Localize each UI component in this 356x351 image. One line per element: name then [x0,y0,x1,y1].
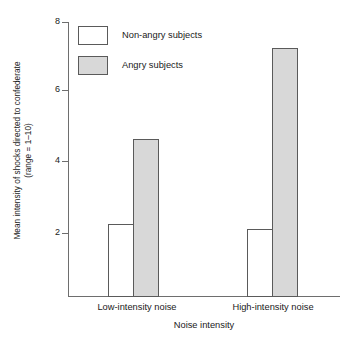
legend-label-non-angry: Non-angry subjects [122,30,202,40]
legend-label-angry: Angry subjects [122,60,183,70]
bar-low-intensity-non-angry [108,224,134,297]
legend: Non-angry subjects Angry subjects [78,24,202,84]
bar-low-intensity-angry [133,139,159,297]
y-tick-label-6: 6 [20,85,60,94]
y-tick-mark-2 [62,233,69,234]
y-axis-title: Mean intensity of shocks directed to con… [0,0,46,300]
y-tick-mark-4 [62,161,69,162]
bar-high-intensity-angry [272,48,298,297]
legend-item-angry: Angry subjects [78,54,202,76]
x-axis-title: Noise intensity [68,320,340,331]
y-tick-mark-6 [62,90,69,91]
y-tick-label-4: 4 [20,156,60,165]
bar-high-intensity-non-angry [247,229,273,297]
y-tick-label-8: 8 [20,17,60,26]
y-tick-label-2: 2 [20,228,60,237]
legend-item-non-angry: Non-angry subjects [78,24,202,46]
bar-chart: Mean intensity of shocks directed to con… [0,0,356,351]
white-swatch-icon [78,26,108,45]
y-axis-line [68,22,69,296]
gray-swatch-icon [78,56,108,75]
x-tick-label-low-intensity: Low-intensity noise [63,302,211,313]
x-tick-label-high-intensity: High-intensity noise [199,302,347,313]
y-tick-mark-8 [62,22,69,23]
